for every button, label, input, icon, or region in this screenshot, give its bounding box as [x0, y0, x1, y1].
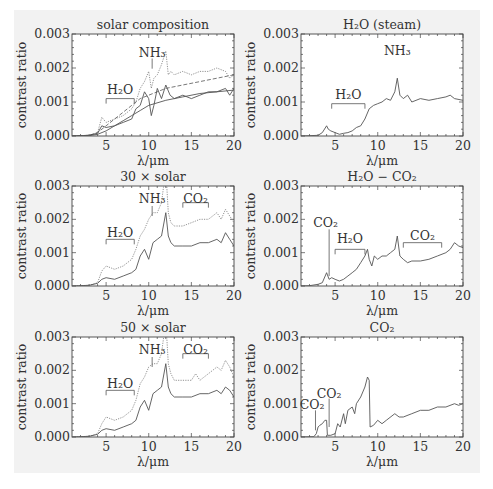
- annotation-label: NH₃: [139, 342, 166, 357]
- chart-title: 50 × solar: [120, 320, 186, 335]
- y-tick-label: 0.003: [34, 26, 70, 41]
- y-tick-label: 0.002: [34, 60, 70, 75]
- y-tick-label: 0.001: [263, 396, 299, 411]
- chart-title: 30 × solar: [120, 169, 186, 184]
- x-tick-label: 10: [141, 439, 157, 454]
- x-tick-label: 10: [370, 138, 386, 153]
- y-tick-label: 0.002: [34, 211, 70, 226]
- x-tick-label: 15: [183, 138, 199, 153]
- chart-panel-50x: 51015200.0000.0010.0020.00350 × solarλ/μ…: [14, 320, 242, 469]
- y-tick-label: 0.001: [34, 245, 70, 260]
- x-tick-label: 5: [102, 439, 110, 454]
- y-axis-label: contrast ratio: [243, 42, 258, 128]
- annotation-label: NH₃: [139, 191, 166, 206]
- x-tick-label: 15: [183, 439, 199, 454]
- y-axis-label: contrast ratio: [243, 193, 258, 279]
- x-tick-label: 5: [102, 288, 110, 303]
- x-axis-label: λ/μm: [366, 153, 398, 168]
- annotation-label: H₂O: [335, 87, 361, 102]
- x-tick-label: 5: [331, 288, 339, 303]
- y-tick-label: 0.000: [263, 429, 299, 444]
- y-tick-label: 0.002: [263, 211, 299, 226]
- x-tick-label: 5: [331, 138, 339, 153]
- y-axis-label: contrast ratio: [14, 344, 29, 430]
- y-tick-label: 0.003: [34, 329, 70, 344]
- x-axis-label: λ/μm: [366, 303, 398, 318]
- y-tick-label: 0.002: [34, 362, 70, 377]
- x-tick-label: 20: [226, 439, 242, 454]
- x-tick-label: 10: [141, 138, 157, 153]
- y-axis-label: contrast ratio: [14, 193, 29, 279]
- x-tick-label: 20: [226, 138, 242, 153]
- plot-area: [301, 34, 463, 136]
- annotation-label: NH₃: [384, 43, 411, 58]
- y-tick-label: 0.000: [263, 128, 299, 143]
- x-axis-label: λ/μm: [366, 454, 398, 469]
- y-tick-label: 0.001: [34, 94, 70, 109]
- annotation-label: H₂O: [107, 376, 133, 391]
- chart-title: H₂O (steam): [343, 17, 421, 32]
- x-tick-label: 10: [370, 439, 386, 454]
- y-tick-label: 0.003: [263, 178, 299, 193]
- chart-panel-h2o-co2: 51015200.0000.0010.0020.003H₂O − CO₂λ/μm…: [243, 169, 471, 318]
- y-axis-label: contrast ratio: [243, 344, 258, 430]
- chart-panel-30x: 51015200.0000.0010.0020.00330 × solarλ/μ…: [14, 169, 242, 318]
- x-tick-label: 15: [412, 138, 428, 153]
- annotation-label: CO₂: [313, 215, 338, 230]
- y-tick-label: 0.000: [34, 278, 70, 293]
- annotation-label: H₂O: [107, 82, 133, 97]
- x-tick-label: 20: [226, 288, 242, 303]
- y-tick-label: 0.002: [263, 60, 299, 75]
- y-tick-label: 0.001: [263, 245, 299, 260]
- x-tick-label: 5: [331, 439, 339, 454]
- y-tick-label: 0.003: [34, 178, 70, 193]
- chart-panel-steam: 51015200.0000.0010.0020.003H₂O (steam)λ/…: [243, 17, 471, 168]
- x-axis-label: λ/μm: [137, 153, 169, 168]
- chart-title: solar composition: [97, 17, 209, 32]
- annotation-label: NH₃: [139, 45, 166, 60]
- annotation-label: CO₂: [183, 191, 208, 206]
- y-tick-label: 0.001: [263, 94, 299, 109]
- chart-title: H₂O − CO₂: [347, 169, 416, 184]
- x-axis-label: λ/μm: [137, 454, 169, 469]
- annotation-label: CO₂: [317, 386, 342, 401]
- chart-title: CO₂: [370, 320, 395, 335]
- chart-panel-solar: 51015200.0000.0010.0020.003solar composi…: [14, 17, 242, 168]
- y-tick-label: 0.002: [263, 362, 299, 377]
- annotation-label: H₂O: [337, 231, 363, 246]
- y-tick-label: 0.000: [34, 128, 70, 143]
- annotation-label: H₂O: [107, 225, 133, 240]
- y-tick-label: 0.000: [263, 278, 299, 293]
- x-tick-label: 20: [455, 288, 471, 303]
- chart-panel-co2: 51015200.0000.0010.0020.003CO₂λ/μmcontra…: [243, 320, 471, 469]
- x-tick-label: 15: [412, 439, 428, 454]
- x-tick-label: 10: [370, 288, 386, 303]
- annotation-label: CO₂: [183, 342, 208, 357]
- y-tick-label: 0.000: [34, 429, 70, 444]
- x-tick-label: 10: [141, 288, 157, 303]
- x-axis-label: λ/μm: [137, 303, 169, 318]
- x-tick-label: 5: [102, 138, 110, 153]
- y-axis-label: contrast ratio: [14, 42, 29, 128]
- plot-area: [301, 186, 463, 286]
- y-tick-label: 0.001: [34, 396, 70, 411]
- x-tick-label: 20: [455, 439, 471, 454]
- x-tick-label: 15: [183, 288, 199, 303]
- x-tick-label: 15: [412, 288, 428, 303]
- y-tick-label: 0.003: [263, 329, 299, 344]
- chart-canvas: 51015200.0000.0010.0020.003solar composi…: [0, 0, 493, 489]
- annotation-label: CO₂: [410, 228, 435, 243]
- y-tick-label: 0.003: [263, 26, 299, 41]
- x-tick-label: 20: [455, 138, 471, 153]
